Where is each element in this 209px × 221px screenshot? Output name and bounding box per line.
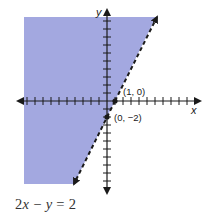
- point-label-0-neg2: (0, −2): [114, 112, 142, 123]
- point-0-neg2: [104, 114, 109, 119]
- rhs: 2: [69, 196, 77, 212]
- point-label-1-0: (1, 0): [123, 86, 145, 97]
- equals: =: [56, 196, 64, 212]
- graph-canvas: y x (1, 0) (0, −2): [0, 0, 209, 221]
- x-axis-label: x: [190, 104, 197, 116]
- y-axis-label: y: [95, 6, 103, 18]
- coef: 2: [15, 196, 23, 212]
- equation-caption: 2x − y = 2: [15, 196, 76, 213]
- var-x: x: [23, 196, 30, 212]
- var-y: y: [46, 196, 53, 212]
- op: −: [33, 196, 41, 212]
- point-1-0: [112, 98, 117, 103]
